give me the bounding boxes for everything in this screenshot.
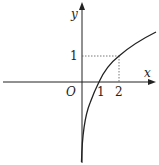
x-axis-label: x [144, 66, 151, 80]
graph: y x O 1 2 1 [0, 0, 159, 165]
y-axis-label: y [70, 7, 78, 21]
y-axis-arrow-icon [79, 2, 85, 10]
x-tick-1: 1 [97, 85, 105, 99]
x-tick-2: 2 [115, 85, 123, 99]
origin-label: O [66, 85, 76, 99]
y-tick-1: 1 [70, 49, 78, 63]
